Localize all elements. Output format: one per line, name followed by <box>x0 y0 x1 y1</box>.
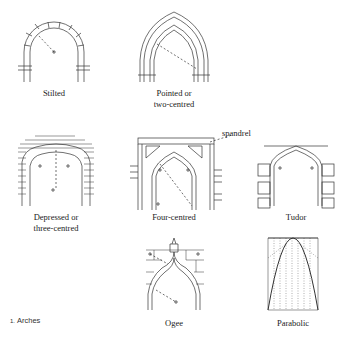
tudor-label: Tudor <box>266 212 326 223</box>
ogee-arch-drawing <box>146 238 204 310</box>
pointed-arch-drawing <box>138 12 210 82</box>
depressed-label: Depressed or three-centred <box>16 212 96 233</box>
arches-diagram <box>0 0 348 342</box>
depressed-arch-drawing <box>18 136 94 206</box>
ogee-label: Ogee <box>154 318 194 329</box>
parabolic-label: Parabolic <box>263 318 323 329</box>
tudor-arch-drawing <box>258 146 334 208</box>
four-centred-arch-drawing <box>130 135 232 210</box>
figure-number: 1. <box>10 318 15 324</box>
stilted-label: Stilted <box>24 88 84 99</box>
figure-caption-text: Arches <box>17 316 40 325</box>
stilted-arch-drawing <box>18 22 90 82</box>
figure-caption: 1.Arches <box>10 316 40 325</box>
parabolic-arch-drawing <box>268 238 318 310</box>
spandrel-annotation: spandrel <box>222 128 262 139</box>
four-centred-label: Four-centred <box>134 212 214 223</box>
pointed-label: Pointed or two-centred <box>134 88 214 109</box>
